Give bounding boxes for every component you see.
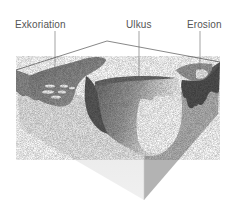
skin-block-diagram — [0, 0, 236, 214]
label-erosion: Erosion — [187, 19, 222, 31]
label-ulkus: Ulkus — [126, 19, 152, 31]
stipple-texture — [16, 56, 220, 160]
label-exkoriation: Exkoriation — [15, 19, 66, 31]
